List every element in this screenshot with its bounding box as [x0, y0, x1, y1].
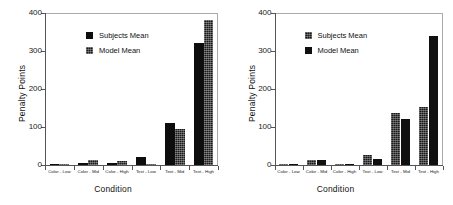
bar-model [59, 164, 69, 165]
bar-subjects [50, 164, 60, 165]
legend-item-model: Model Mean [86, 45, 149, 56]
bar-model [429, 36, 439, 165]
bar-model [289, 164, 299, 165]
bar-subjects [194, 43, 204, 165]
legend-label-subjects: Subjects Mean [99, 31, 149, 40]
bar-subjects [78, 163, 88, 165]
legend-label-model: Model Mean [318, 46, 359, 55]
legend: Subjects Mean Model Mean [86, 30, 149, 60]
bar-model [345, 164, 355, 165]
bar-model [175, 129, 185, 165]
legend-item-model: Model Mean [305, 45, 368, 56]
bar-subjects [165, 123, 175, 165]
bar-model [146, 164, 156, 165]
legend-item-subjects: Subjects Mean [305, 30, 368, 41]
bar-model [88, 160, 98, 165]
chart-panel-right: Penalty Points Condition 0100200300400 C… [227, 0, 453, 205]
bar-model [204, 20, 214, 165]
legend-label-model: Model Mean [99, 46, 140, 55]
bar-subjects [279, 164, 289, 165]
bar-subjects [419, 107, 429, 165]
figure-container: Penalty Points Condition 0100200300400 C… [0, 0, 453, 205]
legend-swatch-model-icon [305, 47, 312, 54]
chart-panel-left: Penalty Points Condition 0100200300400 C… [0, 0, 227, 205]
legend-swatch-model-icon [86, 47, 93, 54]
bar-model [117, 161, 127, 165]
legend-swatch-subjects-icon [305, 32, 312, 39]
bar-model [373, 159, 383, 165]
legend-label-subjects: Subjects Mean [318, 31, 368, 40]
legend-item-subjects: Subjects Mean [86, 30, 149, 41]
bar-subjects [363, 155, 373, 165]
bar-subjects [391, 113, 401, 165]
bar-subjects [107, 163, 117, 165]
legend: Subjects Mean Model Mean [305, 30, 368, 60]
bar-subjects [335, 164, 345, 165]
bar-subjects [307, 160, 317, 165]
bar-model [401, 119, 411, 165]
bar-subjects [136, 157, 146, 165]
bar-model [317, 160, 327, 165]
legend-swatch-subjects-icon [86, 32, 93, 39]
